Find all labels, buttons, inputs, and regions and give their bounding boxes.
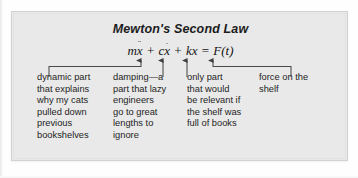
annotation-inertia-term: dynamic part that explains why my cats p… (37, 72, 111, 142)
figure-panel: Mewton's Second Law m¨x + c·x + kx = F(t… (11, 11, 348, 161)
annotation-damping-term: damping—a part that lazy engineers go to… (113, 72, 185, 142)
annotation-forcing-term: force on the shelf (259, 72, 337, 95)
annotation-labels: dynamic part that explains why my cats p… (12, 72, 349, 158)
annotation-stiffness-term: only part that would be relevant if the … (187, 72, 259, 130)
scan-edge-left (0, 0, 3, 178)
scan-edge-bottom (0, 176, 358, 178)
figure-root: Mewton's Second Law m¨x + c·x + kx = F(t… (0, 0, 358, 178)
